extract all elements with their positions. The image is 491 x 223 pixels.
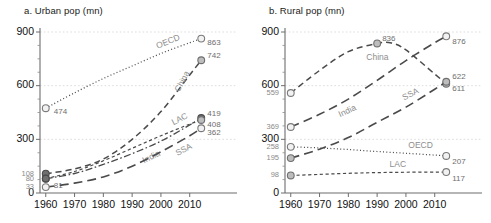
panel-a-plot: 0300600900338010819601970198019902000201… bbox=[0, 0, 245, 223]
curve-lac bbox=[291, 172, 446, 175]
marker-start-oecd bbox=[42, 105, 49, 112]
marker-start-lac bbox=[287, 172, 294, 179]
series-label-india: India bbox=[337, 102, 358, 119]
series-label-lac: LAC bbox=[390, 159, 407, 169]
marker-end-lac bbox=[198, 117, 205, 124]
series-label-ssa: SSA bbox=[174, 141, 194, 158]
x-tick-label-1990: 1990 bbox=[365, 198, 389, 210]
end-value-oecd: 863 bbox=[207, 38, 221, 47]
series-lac: 117LAC bbox=[287, 159, 465, 184]
y-extra-label-195: 195 bbox=[266, 153, 279, 162]
end-value-china: 742 bbox=[207, 51, 221, 60]
end-value-china: 611 bbox=[452, 84, 465, 93]
x-tick-label-2010: 2010 bbox=[423, 198, 447, 210]
series-lac: 40881LAC bbox=[42, 111, 221, 190]
y-extra-label-98: 98 bbox=[271, 170, 279, 179]
series-oecd: 207OECD bbox=[287, 140, 466, 166]
marker-end-oecd bbox=[198, 35, 205, 42]
x-tick-label-2000: 2000 bbox=[149, 198, 173, 210]
end-value-india: 876 bbox=[452, 37, 466, 46]
start-value-oecd: 474 bbox=[54, 107, 68, 116]
end-value-india: 419 bbox=[207, 109, 221, 118]
marker-end-ssa bbox=[198, 125, 205, 132]
y-tick-label-0: 0 bbox=[273, 186, 279, 198]
marker-start-ssa bbox=[42, 184, 49, 191]
x-tick-label-1960: 1960 bbox=[279, 198, 303, 210]
x-tick-label-1960: 1960 bbox=[34, 198, 58, 210]
series-label-oecd: OECD bbox=[408, 140, 433, 150]
marker-end-lac bbox=[443, 169, 450, 176]
panel-rural-pop: b. Rural pop (mn) 0300600900981952583695… bbox=[245, 0, 490, 223]
marker-start-india bbox=[287, 124, 294, 131]
x-tick-label-1980: 1980 bbox=[92, 198, 116, 210]
series-china: 742China bbox=[42, 51, 221, 177]
end-value-oecd: 207 bbox=[452, 157, 466, 166]
y-extra-label-33: 33 bbox=[26, 182, 34, 191]
curve-india bbox=[291, 36, 446, 127]
curve-oecd bbox=[46, 39, 201, 109]
x-tick-label-1970: 1970 bbox=[308, 198, 332, 210]
y-tick-label-900: 900 bbox=[261, 25, 279, 37]
marker-start-ssa bbox=[287, 155, 294, 162]
series-india: 419India bbox=[42, 109, 221, 182]
y-extra-label-369: 369 bbox=[266, 122, 279, 131]
x-tick-label-2010: 2010 bbox=[178, 198, 202, 210]
series-label-china: China bbox=[172, 69, 191, 94]
x-tick-label-1980: 1980 bbox=[337, 198, 361, 210]
end-value-lac: 408 bbox=[207, 120, 221, 129]
x-tick-label-2000: 2000 bbox=[394, 198, 418, 210]
marker-start-oecd bbox=[287, 143, 294, 150]
x-tick-label-1970: 1970 bbox=[63, 198, 87, 210]
y-extra-label-108: 108 bbox=[21, 169, 34, 178]
end-value-ssa: 622 bbox=[452, 72, 466, 81]
end-value-ssa: 362 bbox=[207, 128, 221, 137]
marker-end-ssa bbox=[443, 78, 450, 85]
mid-value-china: 836 bbox=[382, 34, 396, 43]
series-label-lac: LAC bbox=[170, 111, 189, 127]
y-extra-label-559: 559 bbox=[266, 88, 279, 97]
panel-b-plot: 0300600900981952583695591960197019801990… bbox=[245, 0, 490, 223]
series-label-china: China bbox=[366, 52, 388, 62]
y-tick-label-900: 900 bbox=[16, 25, 34, 37]
figure-container: a. Urban pop (mn) 0300600900338010819601… bbox=[0, 0, 491, 223]
series-label-india: India bbox=[141, 148, 162, 165]
y-tick-label-600: 600 bbox=[16, 78, 34, 90]
x-tick-label-1990: 1990 bbox=[120, 198, 144, 210]
y-tick-label-300: 300 bbox=[16, 132, 34, 144]
series-oecd: 863OECD bbox=[42, 32, 221, 112]
marker-end-china bbox=[198, 57, 205, 64]
y-extra-label-258: 258 bbox=[266, 142, 279, 151]
panel-urban-pop: a. Urban pop (mn) 0300600900338010819601… bbox=[0, 0, 245, 223]
marker-mid-china bbox=[374, 40, 381, 47]
marker-start-lac bbox=[42, 175, 49, 182]
end-value-lac: 117 bbox=[452, 174, 465, 183]
series-india: 876India bbox=[287, 33, 466, 131]
series-ssa: 362SSA bbox=[42, 125, 221, 191]
marker-end-oecd bbox=[443, 153, 450, 160]
series-label-oecd: OECD bbox=[155, 32, 182, 50]
series-china: 611836China bbox=[287, 34, 465, 97]
marker-start-china bbox=[287, 90, 294, 97]
marker-end-india bbox=[443, 33, 450, 40]
